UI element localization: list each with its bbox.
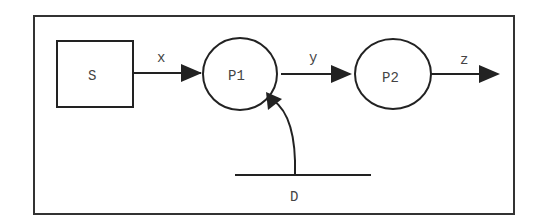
source-label: S <box>88 68 96 84</box>
edge-d-to-p1 <box>266 92 295 175</box>
process1-node: P1 <box>203 38 277 110</box>
edge-x-label: x <box>157 50 165 66</box>
store-label: D <box>290 189 298 205</box>
source-node: S <box>57 41 133 107</box>
edge-x: x <box>133 50 202 82</box>
diagram-frame <box>34 16 514 214</box>
process2-node: P2 <box>355 39 431 109</box>
process1-label: P1 <box>228 68 245 84</box>
data-flow-diagram: S x P1 y P2 z D <box>0 0 539 223</box>
process2-label: P2 <box>382 70 399 86</box>
edge-z: z <box>431 52 500 83</box>
store-node: D <box>235 175 371 205</box>
edge-z-label: z <box>460 52 468 68</box>
edge-y-label: y <box>309 50 317 66</box>
edge-y: y <box>281 50 352 83</box>
